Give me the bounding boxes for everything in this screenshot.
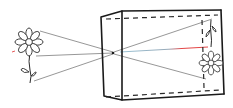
camera-top-edge (122, 10, 221, 11)
image-flower-head (199, 51, 223, 75)
hidden-edge-top (106, 15, 218, 19)
ray-pinhole-to-image-bottom (114, 54, 206, 79)
flower-leaf-left (21, 68, 29, 72)
camera-back-edge (221, 10, 224, 94)
ray-bottom-to-pinhole (34, 54, 113, 81)
image-leaf-left (206, 30, 210, 37)
ray-central-highlight (120, 47, 208, 52)
flower-head (12, 28, 43, 56)
object-flower (12, 28, 43, 83)
image-stem (211, 20, 212, 47)
pinhole (112, 52, 115, 55)
image-leaf-right (212, 26, 216, 32)
ray-pinhole-to-image-top (114, 19, 212, 52)
flower-center (26, 39, 33, 46)
ray-center-to-pinhole (36, 53, 113, 56)
flower-stem (29, 52, 31, 83)
image-flower-center (208, 60, 214, 66)
light-rays (34, 19, 212, 81)
pinhole-camera-diagram (0, 0, 233, 108)
flower-leaf-right (31, 72, 36, 76)
